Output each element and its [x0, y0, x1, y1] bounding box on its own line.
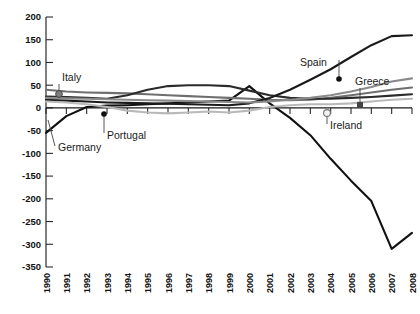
y-tick-label: -300: [22, 239, 41, 250]
marker-italy: [56, 91, 63, 98]
x-tick-label: 1991: [62, 273, 72, 293]
marker-greece: [357, 102, 363, 108]
callout-label-ireland: Ireland: [330, 119, 362, 131]
x-tick-label: 1997: [184, 273, 194, 293]
x-tick-label: 1998: [204, 273, 214, 293]
x-tick-label: 1993: [103, 273, 113, 293]
y-tick-labels: 200150100500-50-100-150-200-250-300-350: [22, 11, 41, 272]
y-tick-group: [46, 17, 53, 267]
chart-container: 200150100500-50-100-150-200-250-300-350 …: [0, 0, 420, 314]
callout-label-spain: Spain: [300, 56, 327, 68]
y-tick-label: -50: [27, 125, 41, 136]
y-tick-label: -350: [22, 261, 41, 272]
line-chart: 200150100500-50-100-150-200-250-300-350 …: [0, 0, 420, 314]
callout-label-germany: Germany: [58, 141, 102, 153]
x-tick-label: 2004: [326, 273, 336, 293]
marker-spain: [336, 76, 342, 82]
x-tick-label: 1990: [42, 273, 52, 293]
y-tick-label: 150: [25, 34, 41, 45]
callout-label-italy: Italy: [62, 71, 82, 83]
callout-label-greece: Greece: [355, 75, 390, 87]
y-tick-label: 50: [30, 80, 41, 91]
y-tick-label: 200: [25, 11, 41, 22]
x-tick-label: 1994: [123, 273, 133, 293]
x-tick-label: 2002: [286, 273, 296, 293]
y-tick-label: -150: [22, 170, 41, 181]
y-tick-label: 100: [25, 57, 41, 68]
x-tick-label: 2005: [347, 273, 357, 293]
y-tick-label: -200: [22, 193, 41, 204]
x-tick-label: 2000: [245, 273, 255, 293]
x-tick-label: 1999: [225, 273, 235, 293]
x-tick-label: 2003: [306, 273, 316, 293]
x-tick-label: 1992: [82, 273, 92, 293]
x-tick-label: 2001: [265, 273, 275, 293]
x-tick-labels: 1990199119921993199419951996199719981999…: [42, 273, 418, 293]
x-tick-label: 2007: [387, 273, 397, 293]
x-tick-label: 1995: [143, 273, 153, 293]
x-tick-label: 2008: [408, 273, 418, 293]
x-tick-label: 1996: [164, 273, 174, 293]
y-tick-label: 0: [36, 102, 41, 113]
callout-label-portugal: Portugal: [107, 129, 146, 141]
marker-portugal: [101, 111, 107, 117]
y-tick-label: -100: [22, 148, 41, 159]
x-tick-label: 2006: [367, 273, 377, 293]
marker-ireland: [324, 110, 331, 117]
y-tick-label: -250: [22, 216, 41, 227]
